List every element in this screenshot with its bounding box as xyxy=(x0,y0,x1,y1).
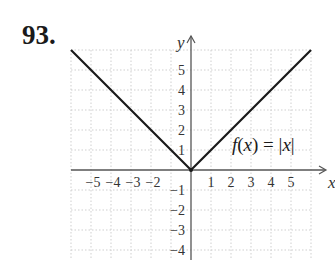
x-tick-label: −4 xyxy=(106,175,121,190)
vertex-point xyxy=(189,168,193,172)
x-tick-label: 3 xyxy=(248,175,255,190)
x-tick-label: 5 xyxy=(288,175,295,190)
x-tick-label: 4 xyxy=(268,175,275,190)
y-axis-label: y xyxy=(175,33,185,52)
x-tick-label: 1 xyxy=(208,175,215,190)
x-tick-label: 2 xyxy=(228,175,235,190)
y-tick-label: 4 xyxy=(178,83,185,98)
x-axis-label: x xyxy=(327,173,335,192)
y-tick-label: 2 xyxy=(178,123,185,138)
y-tick-label: −4 xyxy=(170,243,185,258)
y-tick-label: 3 xyxy=(178,103,185,118)
y-tick-label: 5 xyxy=(178,63,185,78)
x-tick-label: −3 xyxy=(126,175,141,190)
absolute-value-graph: xy−5−4−3−21234554321−1−2−3−4f(x) = |x| xyxy=(0,0,335,260)
y-tick-label: −3 xyxy=(170,223,185,238)
y-tick-label: −1 xyxy=(170,183,185,198)
function-label: f(x) = |x| xyxy=(232,134,295,156)
y-tick-label: −2 xyxy=(170,203,185,218)
y-tick-label: 1 xyxy=(178,143,185,158)
x-tick-label: −5 xyxy=(86,175,101,190)
x-tick-label: −2 xyxy=(146,175,161,190)
